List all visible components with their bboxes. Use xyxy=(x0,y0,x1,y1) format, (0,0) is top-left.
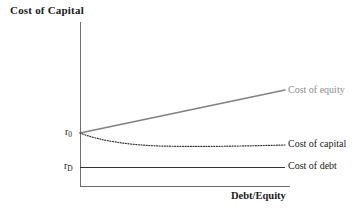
y-tick-label-r0: r0 xyxy=(65,126,72,137)
plot-area xyxy=(0,0,357,208)
y-tick-rd-subscript: D xyxy=(67,164,72,173)
series-line-cost-of-equity xyxy=(80,90,285,133)
series-label-cost-of-debt: Cost of debt xyxy=(288,160,337,171)
series-label-cost-of-capital: Cost of capital xyxy=(288,138,346,149)
series-label-cost-of-equity: Cost of equity xyxy=(288,84,345,95)
y-tick-r0-subscript: 0 xyxy=(68,130,72,139)
series-line-cost-of-capital xyxy=(80,133,285,146)
y-tick-label-rd: rD xyxy=(64,160,73,171)
x-axis-title: Debt/Equity xyxy=(231,190,286,201)
cost-of-capital-chart: Cost of Capital r0 rD Cost of equity Cos… xyxy=(0,0,357,208)
